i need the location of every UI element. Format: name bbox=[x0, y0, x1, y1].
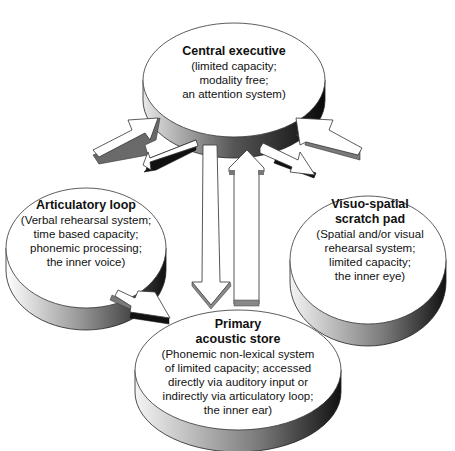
visuo-spatial-desc-2: rehearsal system; bbox=[295, 241, 445, 255]
articulatory-loop-desc-4: the inner voice) bbox=[6, 255, 166, 269]
primary-acoustic-store-label: Primary acoustic store (Phonemic non-lex… bbox=[140, 317, 336, 417]
visuo-spatial-title-2: scratch pad bbox=[295, 212, 445, 227]
central-executive-label: Central executive (limited capacity; mod… bbox=[150, 44, 318, 101]
visuo-spatial-desc-4: the inner eye) bbox=[295, 269, 445, 283]
articulatory-loop-desc-1: (Verbal rehearsal system; bbox=[6, 213, 166, 227]
primary-acoustic-store-desc-1: (Phonemic non-lexical system bbox=[140, 347, 336, 361]
central-executive-desc-1: (limited capacity; bbox=[150, 59, 318, 73]
articulatory-loop-desc-2: time based capacity; bbox=[6, 227, 166, 241]
articulatory-loop-title: Articulatory loop bbox=[6, 198, 166, 213]
primary-acoustic-store-title-1: Primary bbox=[140, 317, 336, 332]
central-executive-title: Central executive bbox=[150, 44, 318, 59]
central-executive-desc-3: an attention system) bbox=[150, 87, 318, 101]
arrow-executive-to-acoustic bbox=[192, 145, 231, 309]
articulatory-loop-desc-3: phonemic processing; bbox=[6, 241, 166, 255]
arrow-acoustic-to-executive bbox=[229, 150, 264, 306]
central-executive-desc-2: modality free; bbox=[150, 73, 318, 87]
arrow-executive-to-articulatory bbox=[143, 140, 198, 172]
primary-acoustic-store-desc-2: of limited capacity; accessed bbox=[140, 361, 336, 375]
visuo-spatial-desc-1: (Spatial and/or visual bbox=[295, 227, 445, 241]
visuo-spatial-desc-3: limited capacity; bbox=[295, 255, 445, 269]
arrow-visuo-to-executive bbox=[296, 118, 362, 160]
primary-acoustic-store-desc-4: indirectly via articulatory loop; bbox=[140, 389, 336, 403]
primary-acoustic-store-desc-3: directly via auditory input or bbox=[140, 375, 336, 389]
articulatory-loop-label: Articulatory loop (Verbal rehearsal syst… bbox=[6, 198, 166, 269]
visuo-spatial-label: Visuo-spatial scratch pad (Spatial and/o… bbox=[295, 197, 445, 283]
arrow-executive-to-visuo bbox=[260, 143, 316, 178]
primary-acoustic-store-desc-5: the inner ear) bbox=[140, 403, 336, 417]
visuo-spatial-title-1: Visuo-spatial bbox=[295, 197, 445, 212]
primary-acoustic-store-title-2: acoustic store bbox=[140, 332, 336, 347]
